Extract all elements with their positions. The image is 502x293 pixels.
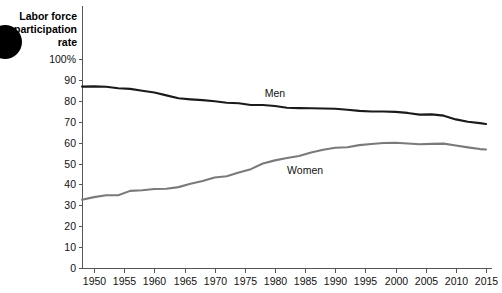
chart-container: Labor forceparticipationrate010203040506… — [0, 0, 502, 293]
x-axis-tick-label: 1995 — [354, 275, 378, 287]
y-axis-tick-label: 100% — [49, 53, 76, 65]
x-axis-tick-label: 1960 — [143, 275, 167, 287]
y-axis-tick-label: 70 — [64, 116, 76, 128]
y-axis-tick-label: 80 — [64, 95, 76, 107]
y-axis-tick-label: 40 — [64, 178, 76, 190]
y-axis-tick-label: 50 — [64, 158, 76, 170]
y-axis-tick-label: 10 — [64, 241, 76, 253]
chart-title-line: participation — [14, 23, 77, 35]
x-axis-tick-label: 1955 — [113, 275, 137, 287]
y-axis-tick-label: 30 — [64, 199, 76, 211]
x-axis-tick-label: 1965 — [174, 275, 198, 287]
chart-title-line: Labor force — [19, 10, 77, 22]
y-axis-tick-label: 0 — [70, 262, 76, 274]
x-axis-tick-label: 1950 — [83, 275, 107, 287]
series-label-women: Women — [287, 164, 323, 176]
x-axis-tick-label: 2010 — [445, 275, 469, 287]
y-axis-tick-label: 60 — [64, 137, 76, 149]
chart-title-line: rate — [58, 36, 77, 48]
x-axis-tick-label: 1970 — [204, 275, 228, 287]
y-axis-tick-label: 20 — [64, 220, 76, 232]
x-axis-tick-label: 2015 — [475, 275, 499, 287]
series-line-women — [82, 143, 486, 200]
x-axis-tick-label: 2005 — [415, 275, 439, 287]
line-chart: Labor forceparticipationrate010203040506… — [0, 0, 502, 293]
x-axis-tick-label: 1975 — [234, 275, 258, 287]
x-axis-tick-label: 1985 — [294, 275, 318, 287]
x-axis-tick-label: 2000 — [385, 275, 409, 287]
x-axis-tick-label: 1990 — [324, 275, 348, 287]
y-axis-tick-label: 90 — [64, 74, 76, 86]
series-label-men: Men — [265, 87, 286, 99]
x-axis-tick-label: 1980 — [264, 275, 288, 287]
